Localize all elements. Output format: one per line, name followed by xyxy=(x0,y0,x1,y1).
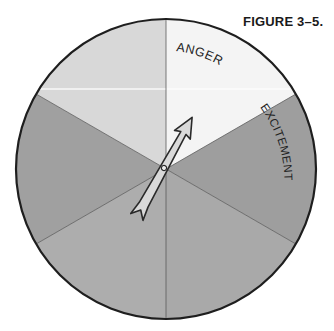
emotion-spinner-wheel: ANGER EXCITEMENT xyxy=(0,0,334,331)
